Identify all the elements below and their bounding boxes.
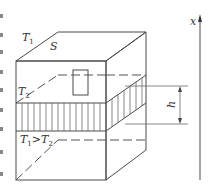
edge-fragment — [0, 70, 3, 74]
edge-fragment — [0, 108, 3, 112]
label-surface-S: S — [50, 41, 58, 52]
label-temperature-relation: T1>T2 — [20, 134, 53, 148]
edge-fragment — [0, 14, 3, 18]
box-outline — [16, 32, 146, 180]
edge-fragment — [0, 150, 3, 154]
label-T2: T2 — [18, 86, 30, 100]
thickness-dimension — [125, 86, 188, 124]
label-h: h — [166, 101, 177, 108]
box-diagram — [0, 0, 215, 186]
label-T1-top: T1 — [22, 32, 34, 46]
edge-fragment — [0, 50, 3, 54]
element-rectangle — [73, 70, 88, 95]
edge-fragment — [0, 88, 3, 92]
x-axis — [198, 14, 202, 180]
edge-fragment — [0, 172, 3, 176]
label-x-axis: x — [190, 16, 196, 27]
edge-fragment — [0, 33, 3, 37]
hatched-layer — [16, 75, 146, 131]
edge-fragment — [0, 127, 3, 131]
